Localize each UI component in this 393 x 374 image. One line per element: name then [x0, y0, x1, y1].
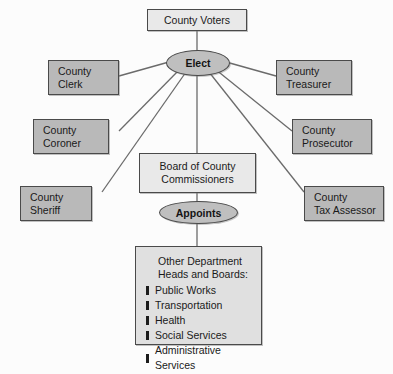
- node-county-treasurer-label: County Treasurer: [277, 65, 351, 91]
- bullet-icon: [146, 316, 149, 325]
- node-county-prosecutor-label: County Prosecutor: [293, 124, 371, 150]
- node-appoints-label: Appoints: [176, 207, 222, 219]
- list-item-label: Health: [155, 313, 185, 328]
- node-county-prosecutor[interactable]: County Prosecutor: [292, 119, 372, 154]
- node-county-treasurer[interactable]: County Treasurer: [276, 60, 352, 95]
- bullet-icon: [146, 286, 149, 295]
- node-county-sheriff[interactable]: County Sheriff: [20, 186, 92, 221]
- bullet-icon: [146, 301, 149, 310]
- list-item[interactable]: Administrative Services: [146, 343, 255, 373]
- list-item[interactable]: Public Works: [146, 283, 255, 298]
- org-chart-diagram: County Voters Elect County Clerk County …: [0, 0, 393, 374]
- node-elect[interactable]: Elect: [166, 50, 230, 76]
- bullet-icon: [146, 354, 149, 363]
- node-county-voters-label: County Voters: [148, 14, 246, 27]
- node-appoints[interactable]: Appoints: [159, 201, 238, 224]
- list-item[interactable]: Transportation: [146, 298, 255, 313]
- departments-list: Public Works Transportation Health Socia…: [146, 283, 255, 373]
- node-other-departments[interactable]: Other Department Heads and Boards: Publi…: [135, 246, 262, 345]
- node-county-tax-assessor-label: County Tax Assessor: [305, 191, 383, 217]
- node-county-sheriff-label: County Sheriff: [21, 191, 91, 217]
- node-county-coroner-label: County Coroner: [34, 124, 108, 150]
- node-county-tax-assessor[interactable]: County Tax Assessor: [304, 186, 384, 221]
- departments-title: Other Department Heads and Boards:: [146, 255, 255, 281]
- node-board-of-county-commissioners[interactable]: Board of County Commissioners: [139, 153, 256, 193]
- list-item-label: Social Services: [155, 328, 227, 343]
- node-county-clerk[interactable]: County Clerk: [48, 60, 119, 95]
- node-elect-label: Elect: [185, 57, 210, 69]
- node-county-clerk-label: County Clerk: [49, 65, 118, 91]
- list-item-label: Transportation: [155, 298, 222, 313]
- edge-elect-coroner: [119, 69, 180, 131]
- list-item-label: Administrative Services: [155, 343, 255, 373]
- node-county-voters[interactable]: County Voters: [147, 9, 247, 31]
- node-county-coroner[interactable]: County Coroner: [33, 119, 109, 154]
- list-item[interactable]: Health: [146, 313, 255, 328]
- list-item-label: Public Works: [155, 283, 216, 298]
- bullet-icon: [146, 331, 149, 340]
- node-board-label: Board of County Commissioners: [140, 160, 255, 186]
- list-item[interactable]: Social Services: [146, 328, 255, 343]
